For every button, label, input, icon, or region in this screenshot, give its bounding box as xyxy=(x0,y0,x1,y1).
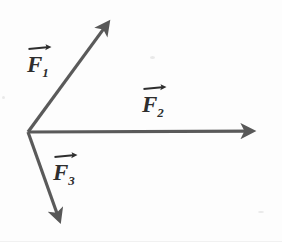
vector-label-base-f2: F xyxy=(142,92,157,117)
vector-label-f2: F2 xyxy=(142,84,164,116)
vector-label-f1: F1 xyxy=(27,44,49,76)
vector-label-f3: F3 xyxy=(53,152,75,184)
label-stack-f1: F1 xyxy=(27,44,49,76)
vector-arrow-f1 xyxy=(28,23,108,132)
vector-label-sub-f2: 2 xyxy=(157,105,164,120)
force-vector-diagram: F1 F2 F3 xyxy=(0,0,282,242)
vector-group xyxy=(28,23,252,219)
label-stack-f2: F2 xyxy=(142,84,164,116)
vector-label-base-f3: F xyxy=(53,160,68,185)
vector-label-base-f1: F xyxy=(27,52,42,77)
vector-canvas xyxy=(0,0,282,242)
vector-label-sub-f3: 3 xyxy=(68,173,75,188)
label-stack-f3: F3 xyxy=(53,152,75,184)
vector-arrow-f2 xyxy=(28,131,252,132)
vector-label-sub-f1: 1 xyxy=(42,65,49,80)
